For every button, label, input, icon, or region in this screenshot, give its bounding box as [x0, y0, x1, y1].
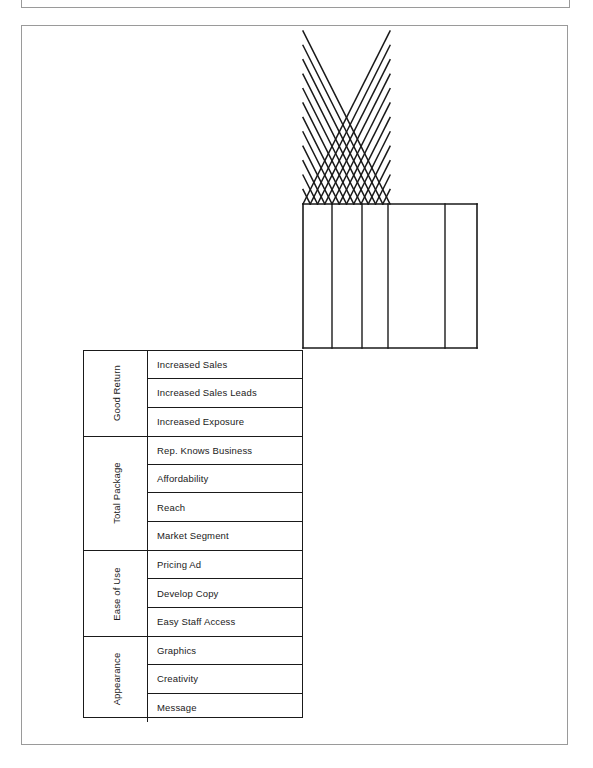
requirement-row-list: Pricing AdDevelop CopyEasy Staff Access	[148, 551, 302, 636]
requirement-group-label: Good Return	[84, 351, 148, 436]
customer-requirements-matrix: Good ReturnIncreased SalesIncreased Sale…	[83, 350, 303, 718]
requirement-row[interactable]: Graphics	[148, 637, 302, 665]
requirement-group: Total PackageRep. Knows BusinessAffordab…	[84, 437, 302, 551]
requirement-row[interactable]: Pricing Ad	[148, 551, 302, 579]
requirement-group: AppearanceGraphicsCreativityMessage	[84, 637, 302, 722]
requirement-row[interactable]: Market Segment	[148, 522, 302, 550]
requirement-row[interactable]: Develop Copy	[148, 579, 302, 607]
requirement-group: Ease of UsePricing AdDevelop CopyEasy St…	[84, 551, 302, 637]
requirement-row[interactable]: Increased Sales	[148, 351, 302, 379]
requirement-row-list: Increased SalesIncreased Sales LeadsIncr…	[148, 351, 302, 436]
requirement-row[interactable]: Affordability	[148, 465, 302, 493]
requirement-group-label-text: Appearance	[110, 653, 121, 706]
requirement-row[interactable]: Increased Sales Leads	[148, 379, 302, 407]
requirement-group-label-text: Total Package	[110, 463, 121, 525]
requirement-row[interactable]: Message	[148, 694, 302, 722]
requirement-row[interactable]: Creativity	[148, 665, 302, 693]
requirement-row-list: GraphicsCreativityMessage	[148, 637, 302, 722]
requirement-group-label: Ease of Use	[84, 551, 148, 636]
requirement-group: Good ReturnIncreased SalesIncreased Sale…	[84, 351, 302, 437]
requirement-row[interactable]: Rep. Knows Business	[148, 437, 302, 465]
requirement-row[interactable]: Reach	[148, 493, 302, 521]
requirement-group-label: Total Package	[84, 437, 148, 550]
correlation-roof-lattice	[303, 31, 390, 204]
requirement-row[interactable]: Easy Staff Access	[148, 608, 302, 636]
requirement-group-label-text: Ease of Use	[110, 567, 121, 620]
relationship-matrix-body	[303, 204, 477, 348]
requirement-row[interactable]: Increased Exposure	[148, 408, 302, 436]
requirement-row-list: Rep. Knows BusinessAffordabilityReachMar…	[148, 437, 302, 550]
requirement-group-label-text: Good Return	[110, 365, 121, 421]
requirement-group-label: Appearance	[84, 637, 148, 722]
